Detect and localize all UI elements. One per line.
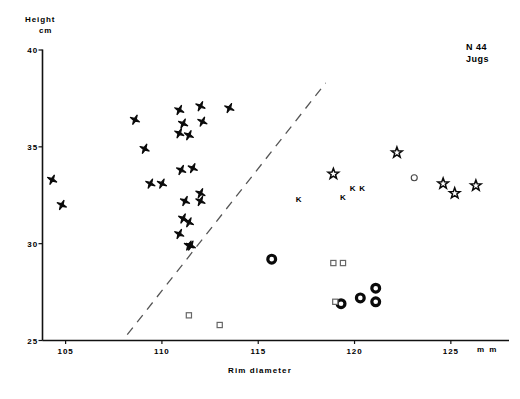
data-point-filled-star-12: [180, 196, 190, 206]
plot-canvas: [0, 0, 520, 399]
data-point-filled-star-2: [130, 115, 140, 125]
data-markers: [47, 101, 481, 327]
data-point-open-square-2: [331, 260, 336, 265]
data-point-filled-star-10: [176, 165, 186, 175]
data-point-open-square-4: [333, 299, 338, 304]
data-point-open-star-1: [392, 147, 403, 157]
data-point-open-star-3: [449, 188, 460, 198]
data-point-filled-star-6: [174, 105, 184, 115]
y-tick-label-30: 30: [18, 239, 38, 248]
data-point-filled-star-20: [196, 188, 206, 198]
data-point-filled-star-0: [47, 175, 57, 185]
axes: [43, 50, 510, 341]
data-point-open-square-1: [217, 322, 222, 327]
data-point-open-star-2: [438, 178, 449, 188]
data-point-ring-0: [268, 255, 276, 263]
data-point-letter-K-1: K: [340, 193, 346, 202]
x-tick-label-105: 105: [58, 347, 74, 356]
data-point-open-square-0: [186, 313, 191, 318]
data-point-ring-3: [372, 284, 380, 292]
y-tick-label-35: 35: [18, 142, 38, 151]
y-tick-label-25: 25: [18, 336, 38, 345]
data-point-filled-star-11: [188, 163, 198, 173]
data-point-filled-star-8: [174, 128, 184, 138]
x-tick-label-125: 125: [443, 347, 459, 356]
data-point-filled-star-9: [184, 130, 194, 140]
data-point-letter-K-3: K: [359, 183, 365, 192]
x-tick-label-110: 110: [154, 347, 170, 356]
data-point-filled-star-19: [198, 117, 208, 127]
data-point-letter-K-2: K: [350, 183, 356, 192]
data-point-filled-star-7: [178, 119, 188, 129]
tick-marks: [39, 50, 451, 344]
y-tick-label-40: 40: [18, 46, 38, 55]
data-point-open-star-4: [471, 180, 482, 190]
data-point-filled-star-21: [196, 196, 206, 206]
data-point-filled-star-1: [57, 200, 67, 210]
data-point-ring-2: [356, 294, 364, 302]
data-point-filled-star-18: [196, 101, 206, 111]
x-tick-label-115: 115: [250, 347, 266, 356]
data-point-open-circle-small-0: [411, 175, 417, 181]
data-point-filled-star-4: [146, 179, 156, 189]
data-point-open-square-3: [340, 260, 345, 265]
data-point-letter-K-0: K: [296, 195, 302, 204]
reference-line: [127, 83, 325, 335]
data-point-filled-star-22: [224, 103, 234, 113]
data-point-ring-4: [372, 298, 380, 306]
x-tick-label-120: 120: [347, 347, 363, 356]
data-point-filled-star-5: [157, 179, 167, 189]
scatter-plot-figure: Height cm N 44 Jugs Rim diameter m m 105…: [0, 0, 520, 399]
data-point-open-star-0: [328, 168, 339, 178]
data-point-filled-star-15: [174, 229, 184, 239]
data-point-filled-star-3: [140, 144, 150, 154]
